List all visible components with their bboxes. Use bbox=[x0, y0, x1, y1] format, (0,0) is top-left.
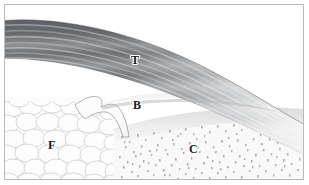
label-bursa: B bbox=[133, 99, 141, 111]
figure-root: T B F C bbox=[0, 0, 309, 185]
label-calcaneus: C bbox=[189, 143, 198, 155]
illustration-canvas: T B F C bbox=[5, 5, 303, 179]
label-fat-pad: F bbox=[48, 139, 55, 151]
figure-frame: T B F C bbox=[4, 4, 304, 180]
label-tendon: T bbox=[131, 54, 139, 66]
anatomy-illustration-svg bbox=[5, 5, 303, 179]
